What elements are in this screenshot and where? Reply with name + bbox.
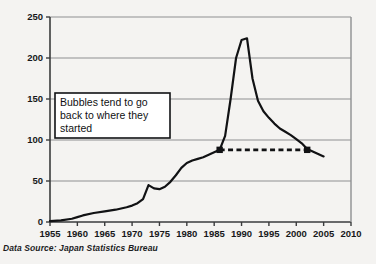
annotation-layer: Bubbles tend to go back to where they st…: [0, 0, 376, 264]
chart-page: 050100150200250 195519601965197019751980…: [0, 0, 376, 264]
annotation-line-2: back to where they: [60, 109, 149, 121]
annotation-line-3: started: [60, 122, 92, 134]
data-source-note: Data Source: Japan Statistics Bureau: [3, 243, 158, 253]
annotation-line-1: Bubbles tend to go: [60, 96, 148, 108]
